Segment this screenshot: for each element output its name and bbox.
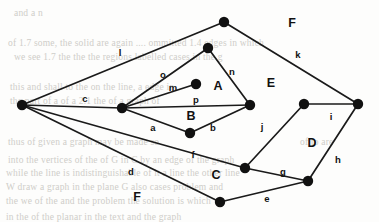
edge-label-n: n — [229, 66, 235, 77]
face-label-B: B — [186, 109, 195, 123]
edge-label-l: l — [119, 47, 122, 58]
edge-label-m: m — [169, 82, 177, 93]
graph-vertex-v7 — [185, 128, 195, 138]
face-label-F1: F — [288, 16, 296, 30]
edge-label-i: i — [330, 111, 333, 122]
graph-edge-p — [122, 105, 250, 108]
graph-vertex-v6 — [245, 100, 255, 110]
graph-edge-f — [22, 105, 245, 168]
graph-vertex-v5 — [191, 79, 201, 89]
edge-label-a: a — [150, 122, 156, 133]
graph-edge-k — [224, 22, 358, 104]
graph-vertex-v2 — [117, 103, 127, 113]
planar-graph-drawing: abcdefghijklmnop ABCDEFF — [0, 0, 379, 222]
edge-label-g: g — [280, 166, 286, 177]
graph-edge-g — [245, 168, 308, 181]
graph-edge-m — [122, 84, 196, 108]
graph-vertex-v12 — [353, 99, 363, 109]
face-labels-group: ABCDEFF — [133, 16, 316, 204]
edge-label-c: c — [82, 93, 87, 104]
face-label-D: D — [307, 136, 316, 150]
graph-edge-c — [22, 105, 122, 108]
edge-label-e: e — [264, 193, 269, 204]
graph-vertex-v3 — [219, 17, 229, 27]
graph-edge-j — [245, 104, 304, 168]
graph-vertex-v11 — [299, 99, 309, 109]
face-label-F2: F — [133, 190, 141, 204]
edge-label-d: d — [128, 166, 134, 177]
edge-label-o: o — [160, 69, 166, 80]
graph-edge-a — [122, 108, 190, 133]
graph-vertex-v10 — [215, 197, 225, 207]
edge-label-p: p — [193, 94, 199, 105]
edge-label-j: j — [260, 121, 264, 132]
face-label-A: A — [213, 79, 222, 93]
figure-canvas: and a nof 1.7 some, the solid are again … — [0, 0, 379, 222]
edge-label-k: k — [295, 49, 301, 60]
graph-vertex-v1 — [17, 100, 27, 110]
edge-label-h: h — [335, 154, 341, 165]
face-label-C: C — [211, 168, 220, 182]
graph-vertex-v8 — [240, 163, 250, 173]
graph-vertex-v9 — [303, 176, 313, 186]
graph-vertex-v4 — [203, 43, 213, 53]
graph-edge-b — [190, 105, 250, 133]
face-label-E: E — [267, 76, 275, 90]
edge-label-b: b — [210, 122, 216, 133]
